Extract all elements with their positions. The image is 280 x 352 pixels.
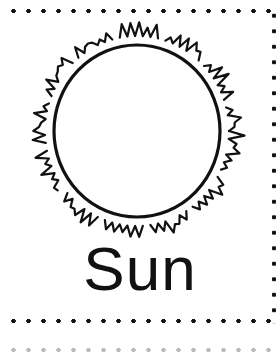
card-label: Sun	[0, 234, 280, 304]
flashcard: Sun	[0, 0, 280, 352]
sun-disc	[54, 45, 220, 217]
